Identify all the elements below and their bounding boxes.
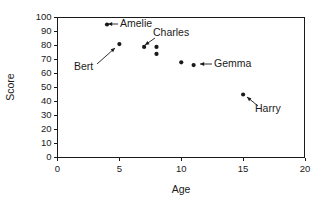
annotation-arrow-head [200, 62, 204, 66]
y-tick-label: 100 [36, 11, 52, 22]
scatter-chart: 0102030405060708090100 05101520 AmelieCh… [0, 0, 326, 200]
data-point [179, 60, 183, 64]
x-tick-label: 15 [238, 163, 249, 174]
annotation-label: Gemma [214, 57, 252, 69]
axis-lines [58, 17, 306, 158]
y-tick-label: 50 [41, 81, 52, 92]
x-axis-ticks [58, 158, 306, 162]
annotation-label: Amelie [120, 17, 152, 29]
y-tick-label: 0 [46, 151, 51, 162]
y-tick-label: 80 [41, 39, 52, 50]
data-point [105, 22, 109, 26]
data-point [117, 42, 121, 46]
y-tick-label: 30 [41, 109, 52, 120]
y-tick-label: 10 [41, 137, 52, 148]
data-point [154, 45, 158, 49]
plot-frame [58, 18, 306, 158]
y-tick-label: 40 [41, 95, 52, 106]
y-tick-label: 60 [41, 67, 52, 78]
data-point [192, 63, 196, 67]
x-tick-label: 20 [300, 163, 311, 174]
y-axis-tick-labels: 0102030405060708090100 [36, 11, 52, 162]
x-tick-label: 5 [117, 163, 122, 174]
y-axis-title: Score [4, 73, 16, 101]
x-tick-label: 0 [55, 163, 60, 174]
annotation-arrow-head [145, 41, 150, 45]
x-axis-title: Age [172, 183, 191, 195]
data-point [154, 52, 158, 56]
data-point [241, 92, 245, 96]
y-tick-label: 70 [41, 53, 52, 64]
x-axis-tick-labels: 05101520 [55, 163, 310, 174]
annotation-label: Bert [74, 60, 93, 72]
y-axis-ticks [54, 18, 58, 158]
y-tick-label: 20 [41, 123, 52, 134]
annotation-label: Harry [255, 102, 281, 114]
x-tick-label: 10 [176, 163, 187, 174]
data-point [142, 45, 146, 49]
y-tick-label: 90 [41, 25, 52, 36]
chart-canvas: 0102030405060708090100 05101520 AmelieCh… [0, 0, 326, 200]
annotation-label: Charles [153, 26, 189, 38]
